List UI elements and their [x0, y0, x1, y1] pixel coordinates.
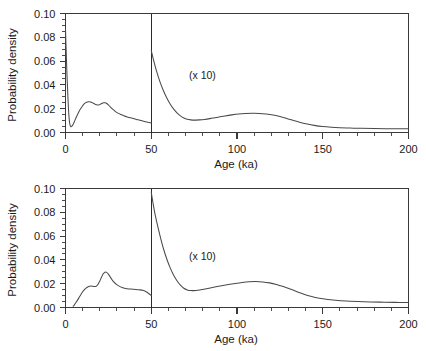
- y-axis-tick-labels: 0.000.020.040.060.080.10: [34, 8, 55, 139]
- y-tick-label: 0.00: [34, 127, 55, 139]
- y-tick-label: 0.10: [34, 8, 55, 20]
- x-axis-ticks: [66, 133, 409, 139]
- x-tick-label: 100: [228, 143, 246, 155]
- scale-annotation: (x 10): [189, 250, 216, 262]
- x-tick-label: 50: [145, 143, 157, 155]
- x-tick-label: 150: [314, 143, 332, 155]
- scale-annotation: (x 10): [189, 69, 216, 81]
- plot-frame-bottom: [66, 189, 409, 308]
- chart-panel-top: 050100150200 0.000.020.040.060.080.10 Ag…: [0, 0, 426, 176]
- y-axis-tick-labels: 0.000.020.040.060.080.10: [34, 183, 55, 314]
- density-curve-left-segment: [66, 29, 152, 127]
- y-axis-title: Probability density: [6, 28, 18, 122]
- y-tick-label: 0.08: [34, 206, 55, 218]
- x-axis-ticks: [66, 308, 409, 314]
- y-tick-label: 0.04: [34, 79, 55, 91]
- y-tick-label: 0.06: [34, 55, 55, 67]
- x-axis-title: Age (ka): [214, 333, 258, 345]
- x-tick-label: 150: [314, 318, 332, 330]
- y-axis-title: Probability density: [6, 203, 18, 297]
- density-curve-right-segment: [151, 50, 408, 128]
- chart-svg-bottom: 050100150200 0.000.020.040.060.080.10 Ag…: [0, 175, 426, 351]
- x-tick-label: 200: [399, 318, 417, 330]
- y-tick-label: 0.10: [34, 183, 55, 195]
- y-tick-label: 0.02: [34, 278, 55, 290]
- x-axis-title: Age (ka): [214, 158, 258, 170]
- x-axis-tick-labels: 050100150200: [62, 318, 417, 330]
- figure-container: 050100150200 0.000.020.040.060.080.10 Ag…: [0, 0, 426, 351]
- y-tick-label: 0.00: [34, 302, 55, 314]
- y-tick-label: 0.06: [34, 230, 55, 242]
- plot-frame-path: [66, 189, 409, 308]
- y-axis-ticks: [60, 14, 66, 133]
- x-tick-label: 50: [145, 318, 157, 330]
- x-tick-label: 0: [62, 318, 68, 330]
- y-tick-label: 0.02: [34, 103, 55, 115]
- x-tick-label: 100: [228, 318, 246, 330]
- chart-panel-bottom: 050100150200 0.000.020.040.060.080.10 Ag…: [0, 175, 426, 351]
- density-curve-left-segment: [73, 272, 151, 306]
- y-tick-label: 0.04: [34, 254, 55, 266]
- x-tick-label: 200: [399, 143, 417, 155]
- x-axis-tick-labels: 050100150200: [62, 143, 417, 155]
- y-tick-label: 0.08: [34, 31, 55, 43]
- y-axis-ticks: [60, 189, 66, 308]
- x-tick-label: 0: [62, 143, 68, 155]
- density-curve-right-segment: [151, 192, 408, 302]
- chart-svg-top: 050100150200 0.000.020.040.060.080.10 Ag…: [0, 0, 426, 176]
